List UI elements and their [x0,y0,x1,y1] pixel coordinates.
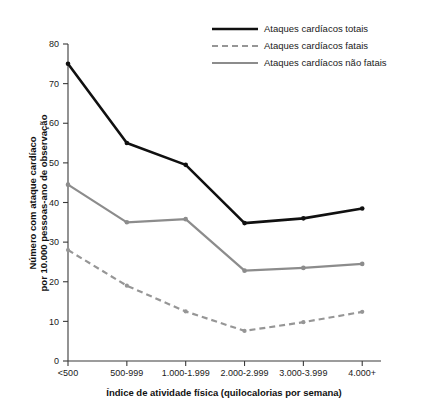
x-axis-title: Índice de atividade física (quilocaloria… [106,387,341,398]
series-line-0 [68,64,362,223]
data-point [301,320,305,324]
y-tick-label: 80 [49,39,59,49]
series-line-1 [68,250,362,331]
line-chart: 01020304050607080 <500500-9991.000-1.999… [0,0,422,415]
legend-label-0: Ataques cardíacos totais [264,23,368,34]
data-point [66,248,70,252]
data-point [66,62,71,67]
x-tick-label: 500-999 [110,368,143,378]
data-point [125,141,130,146]
x-tick-label: 2.000-2.999 [221,368,269,378]
y-tick-label: 50 [49,158,59,168]
series-layer [66,62,365,333]
data-point [183,163,188,168]
y-axis-ticks: 01020304050607080 [49,39,68,366]
y-tick-label: 40 [49,198,59,208]
series-line-2 [68,185,362,271]
x-axis-ticks: <500500-9991.000-1.9992.000-2.9993.000-3… [58,361,376,378]
data-point [242,268,247,273]
x-tick-label: <500 [58,368,78,378]
data-point [242,221,247,226]
data-point [301,216,306,221]
x-tick-label: 1.000-1.999 [162,368,210,378]
y-tick-label: 0 [54,356,59,366]
y-tick-label: 30 [49,237,59,247]
data-point [301,266,306,271]
x-tick-label: 3.000-3.999 [279,368,327,378]
x-tick-label: 4.000+ [348,368,376,378]
y-axis-title-line1: Número com ataque cardíaco [27,136,38,269]
chart-legend: Ataques cardíacos totaisAtaques cardíaco… [212,23,387,68]
data-point [125,220,130,225]
data-point [125,284,129,288]
y-axis-title-line2: por 10.000 pessoas-ano de observação [38,114,49,291]
data-point [183,217,188,222]
legend-label-1: Ataques cardíacos fatais [264,40,368,51]
y-tick-label: 70 [49,79,59,89]
data-point [66,182,71,187]
data-point [360,262,365,267]
chart-figure: 01020304050607080 <500500-9991.000-1.999… [0,0,422,415]
data-point [360,206,365,211]
legend-label-2: Ataques cardíacos não fatais [264,57,387,68]
data-point [360,310,364,314]
y-tick-label: 10 [49,317,59,327]
y-tick-label: 20 [49,277,59,287]
data-point [184,309,188,313]
y-tick-label: 60 [49,118,59,128]
data-point [242,329,246,333]
